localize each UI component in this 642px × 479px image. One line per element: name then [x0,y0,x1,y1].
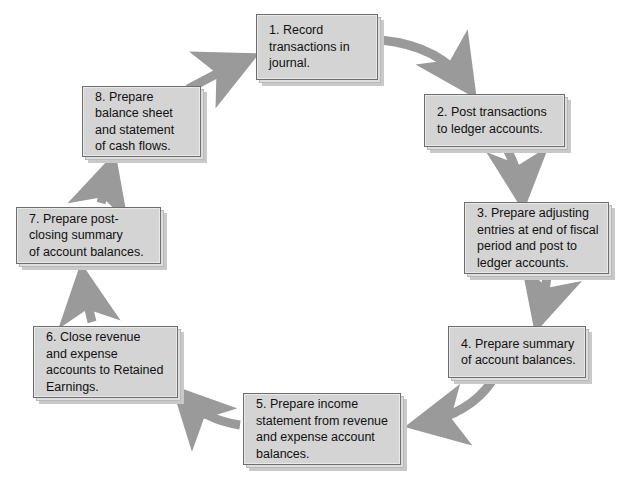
arrow-2-to-3 [508,151,522,196]
arrow-4-to-5 [420,381,492,424]
arrow-6-to-7 [83,278,92,322]
step-box-prepare-adjusting-entries[interactable]: 3. Prepare adjusting entries at end of f… [464,202,609,274]
step-label-6: 6. Close revenue and expense accounts to… [46,329,163,395]
step-box-close-revenue-expense-accounts[interactable]: 6. Close revenue and expense accounts to… [33,326,178,398]
step-box-prepare-income-statement[interactable]: 5. Prepare income statement from revenue… [243,393,401,465]
step-label-1: 1. Record transactions in journal. [269,22,350,72]
box-face: 1. Record transactions in journal. [256,14,378,80]
box-face: 4. Prepare summary of account balances. [448,326,586,378]
arrow-1-to-2 [381,40,468,86]
arrow-3-to-4 [539,277,547,318]
box-face: 6. Close revenue and expense accounts to… [33,326,178,398]
step-label-5: 5. Prepare income statement from revenue… [256,396,388,462]
box-face: 7. Prepare post- closing summary of acco… [16,207,161,264]
arrow-8-to-1 [188,60,245,89]
step-label-7: 7. Prepare post- closing summary of acco… [29,211,144,261]
step-box-record-transactions-in-journal[interactable]: 1. Record transactions in journal. [256,14,378,80]
step-box-prepare-balance-sheet[interactable]: 8. Prepare balance sheet and statement o… [82,86,201,157]
box-face: 8. Prepare balance sheet and statement o… [82,86,201,157]
step-label-2: 2. Post transactions to ledger accounts. [437,104,547,137]
step-label-4: 4. Prepare summary of account balances. [461,336,576,369]
box-face: 5. Prepare income statement from revenue… [243,393,401,465]
box-face: 3. Prepare adjusting entries at end of f… [464,202,609,274]
step-box-prepare-post-closing-summary[interactable]: 7. Prepare post- closing summary of acco… [16,207,161,264]
arrow-7-to-8 [101,167,111,203]
step-box-post-transactions-to-ledger[interactable]: 2. Post transactions to ledger accounts. [424,94,565,147]
step-box-prepare-summary-of-balances[interactable]: 4. Prepare summary of account balances. [448,326,586,378]
accounting-cycle-diagram: 1. Record transactions in journal. 2. Po… [0,0,642,479]
arrow-5-to-6 [182,396,240,425]
step-label-3: 3. Prepare adjusting entries at end of f… [477,205,599,271]
step-label-8: 8. Prepare balance sheet and statement o… [95,89,174,155]
box-face: 2. Post transactions to ledger accounts. [424,94,565,147]
